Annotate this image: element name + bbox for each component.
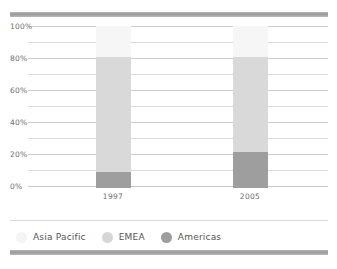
- legend-swatch-asia-pacific-icon: [16, 232, 27, 243]
- x-tick-label-2005: 2005: [220, 192, 280, 201]
- legend-item-americas[interactable]: Americas: [161, 232, 221, 243]
- y-tick-label-20: 20%: [10, 150, 44, 159]
- y-tick-label-40: 40%: [10, 118, 44, 127]
- legend-separator: [10, 220, 328, 221]
- y-tick-label-100: 100%: [10, 22, 44, 31]
- y-tick-label-0: 0%: [10, 182, 44, 191]
- top-decorative-rule: [10, 12, 328, 17]
- gridline-70: [28, 74, 328, 75]
- x-tick-label-1997: 1997: [83, 192, 143, 201]
- bar-1997-segment-americas: [96, 172, 131, 188]
- legend-item-asia-pacific[interactable]: Asia Pacific: [16, 232, 86, 243]
- gridline-100: [28, 26, 328, 27]
- bar-2005[interactable]: [233, 26, 268, 188]
- bar-1997[interactable]: [96, 26, 131, 188]
- legend-swatch-emea-icon: [102, 232, 113, 243]
- chart-legend: Asia Pacific EMEA Americas: [10, 228, 328, 246]
- gridline-10: [28, 170, 328, 171]
- bottom-decorative-rule: [10, 250, 328, 255]
- gridline-90: [28, 42, 328, 43]
- bar-2005-segment-emea: [233, 57, 268, 153]
- gridline-50: [28, 106, 328, 107]
- bar-2005-segment-americas: [233, 152, 268, 188]
- gridline-80: [28, 58, 328, 59]
- legend-label-asia-pacific: Asia Pacific: [33, 232, 86, 242]
- y-tick-label-80: 80%: [10, 54, 44, 63]
- legend-label-americas: Americas: [178, 232, 221, 242]
- bar-1997-segment-emea: [96, 57, 131, 172]
- bar-2005-segment-asia-pacific: [233, 26, 268, 57]
- gridline-30: [28, 138, 328, 139]
- plot-area: 100% 80% 60% 40% 20% 0%: [10, 26, 328, 188]
- legend-label-emea: EMEA: [119, 232, 145, 242]
- gridline-20: [28, 154, 328, 155]
- legend-swatch-americas-icon: [161, 232, 172, 243]
- gridline-0: [28, 186, 328, 187]
- chart-figure: 100% 80% 60% 40% 20% 0% 1997 2005 Asia P…: [0, 0, 337, 269]
- legend-item-emea[interactable]: EMEA: [102, 232, 145, 243]
- bar-1997-segment-asia-pacific: [96, 26, 131, 57]
- x-axis-labels: 1997 2005: [10, 192, 328, 204]
- y-tick-label-60: 60%: [10, 86, 44, 95]
- gridline-60: [28, 90, 328, 91]
- gridline-40: [28, 122, 328, 123]
